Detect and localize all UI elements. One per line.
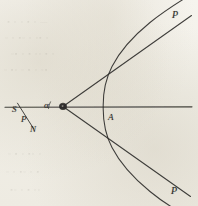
asymptote-upper-line bbox=[63, 16, 192, 107]
label-s-point: S bbox=[12, 105, 17, 114]
label-a-vertex: A bbox=[108, 113, 114, 122]
label-p-left: P bbox=[21, 115, 27, 124]
focus-node-highlight bbox=[62, 105, 64, 107]
label-p-top: P bbox=[172, 10, 178, 20]
hyperbola-branch-lower bbox=[103, 107, 180, 206]
label-p-bottom: P bbox=[171, 186, 177, 196]
label-n-point: N bbox=[30, 125, 36, 134]
figure-drawing bbox=[0, 0, 198, 206]
label-alpha-angle: α bbox=[44, 101, 49, 110]
hyperbola-figure: — ▫ ▪ ▫ ▫ ▪▫ ▪▫ ▫ ▫▪ ▫ ▫▫ ▪ ▫▫ ▪ ▫ ▪▫▪▫ … bbox=[0, 0, 198, 206]
asymptote-lower-line bbox=[63, 107, 191, 197]
